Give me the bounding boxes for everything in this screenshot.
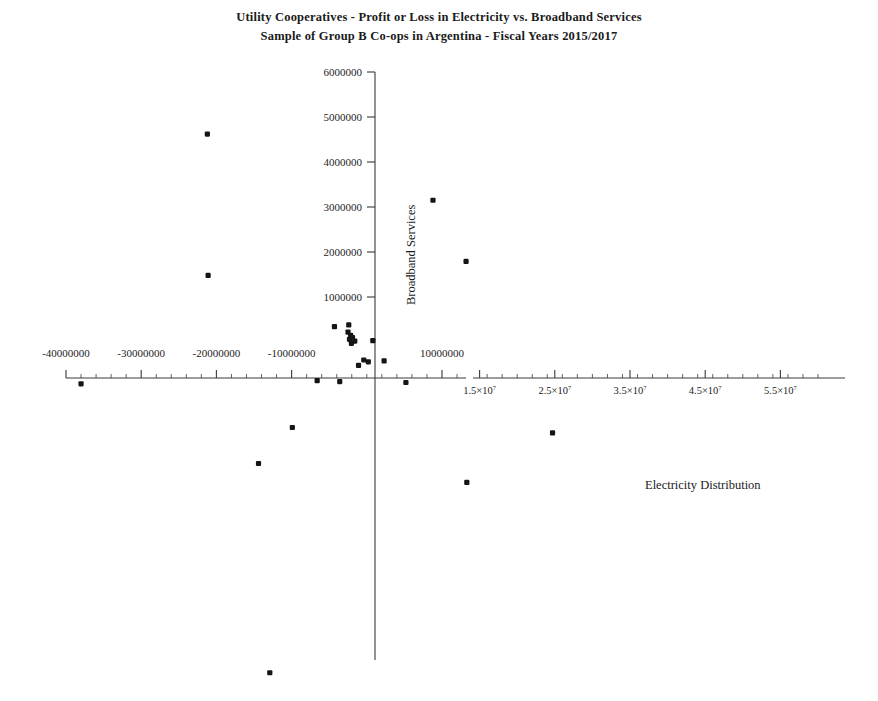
data-point bbox=[352, 339, 357, 344]
x-tick-label: 2.5×107 bbox=[538, 384, 572, 396]
y-axis-title: Broadband Services bbox=[404, 205, 418, 305]
x-tick-label: 3.5×107 bbox=[614, 384, 648, 396]
x-tick-label: -30000000 bbox=[117, 347, 165, 359]
x-tick-exponent: 7 bbox=[794, 384, 798, 391]
data-point bbox=[205, 132, 210, 137]
y-tick-label: 4000000 bbox=[324, 156, 363, 168]
axis-ticks bbox=[66, 72, 818, 378]
data-point bbox=[315, 378, 320, 383]
data-point bbox=[430, 198, 435, 203]
y-tick-label: 6000000 bbox=[324, 66, 363, 78]
axis-tick-labels: -40000000-30000000-20000000-100000001000… bbox=[42, 66, 797, 396]
data-point bbox=[464, 480, 469, 485]
scatter-chart: Utility Cooperatives - Profit or Loss in… bbox=[0, 0, 878, 701]
data-point bbox=[332, 324, 337, 329]
x-tick-label: 5.5×107 bbox=[764, 384, 798, 396]
y-tick-label: 2000000 bbox=[324, 246, 363, 258]
data-point bbox=[256, 461, 261, 466]
axes bbox=[66, 72, 845, 660]
data-point bbox=[78, 381, 83, 386]
x-tick-label: -10000000 bbox=[268, 347, 316, 359]
x-tick-label: 10000000 bbox=[420, 347, 465, 359]
data-point bbox=[403, 380, 408, 385]
data-point bbox=[356, 363, 361, 368]
plot-svg: -40000000-30000000-20000000-100000001000… bbox=[0, 0, 878, 701]
x-axis-title: Electricity Distribution bbox=[645, 478, 761, 492]
data-point bbox=[337, 379, 342, 384]
x-tick-label: 4.5×107 bbox=[689, 384, 723, 396]
data-point bbox=[346, 322, 351, 327]
x-tick-exponent: 7 bbox=[643, 384, 647, 391]
data-point bbox=[381, 358, 386, 363]
data-point bbox=[206, 273, 211, 278]
x-tick-label: -20000000 bbox=[193, 347, 241, 359]
y-tick-label: 1000000 bbox=[324, 291, 363, 303]
data-point bbox=[463, 259, 468, 264]
y-tick-label: 3000000 bbox=[324, 201, 363, 213]
y-tick-label: 5000000 bbox=[324, 111, 363, 123]
data-points bbox=[78, 132, 555, 676]
data-point bbox=[366, 359, 371, 364]
data-point bbox=[550, 430, 555, 435]
x-tick-exponent: 7 bbox=[493, 384, 497, 391]
data-point bbox=[267, 670, 272, 675]
x-tick-exponent: 7 bbox=[568, 384, 572, 391]
plot-area: -40000000-30000000-20000000-100000001000… bbox=[0, 0, 878, 701]
x-tick-exponent: 7 bbox=[718, 384, 722, 391]
data-point bbox=[361, 357, 366, 362]
x-tick-label: -40000000 bbox=[42, 347, 90, 359]
data-point bbox=[290, 425, 295, 430]
x-tick-label: 1.5×107 bbox=[463, 384, 497, 396]
data-point bbox=[370, 338, 375, 343]
